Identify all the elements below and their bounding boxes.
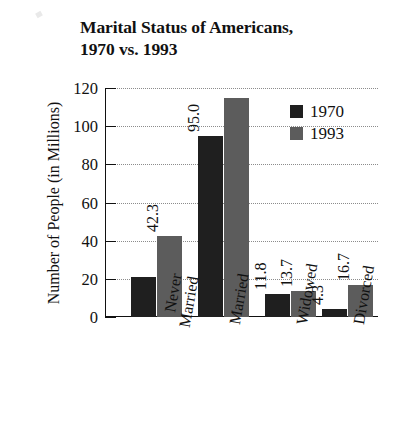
y-tick: 80 [105,164,116,165]
chart-title-line-2: 1970 vs. 1993 [80,38,380,60]
y-tick: 120 [105,88,116,89]
y-tick-label: 100 [73,117,98,137]
legend: 1970 1993 [290,100,344,144]
y-axis-title: Number of People (in Millions) [45,78,63,328]
y-tick: 20 [105,279,116,280]
bar-value-label: 13.7 [278,259,296,287]
y-tick: 40 [105,241,116,242]
chart-title-line-1: Marital Status of Americans, [80,16,380,38]
bar-1970-divorced: 4.3 [322,309,347,317]
bar-value-label: 16.7 [335,253,353,281]
y-tick: 0 [105,317,116,318]
y-tick: 100 [105,126,116,127]
bar-value-label: 42.3 [144,204,162,232]
y-tick-label: 60 [82,194,99,214]
legend-item-1993: 1993 [290,122,344,144]
legend-swatch-1993 [290,127,303,140]
legend-swatch-1970 [290,105,303,118]
category-label-never-married: NeverMarried [160,272,202,329]
legend-label-1970: 1970 [310,103,344,120]
plot-area: 020406080100120 42.395.011.813.74.316.7 … [105,88,378,317]
bar-value-label: 11.8 [252,263,270,290]
chart-title: Marital Status of Americans, 1970 vs. 19… [80,16,380,61]
y-tick-label: 120 [73,79,98,99]
bar-1970-never-married [131,277,156,317]
y-tick-label: 0 [90,308,98,328]
bar-chart: Marital Status of Americans, 1970 vs. 19… [0,0,393,425]
legend-item-1970: 1970 [290,100,344,122]
bar-1970-widowed: 11.8 [265,294,290,317]
y-tick-label: 40 [82,232,99,252]
scan-artifact [35,11,43,18]
legend-label-1993: 1993 [310,125,344,142]
y-tick-label: 80 [82,155,99,175]
y-tick: 60 [105,203,116,204]
bar-value-label: 95.0 [185,104,203,132]
gridline [105,88,378,89]
bar-1970-married: 95.0 [198,136,223,317]
y-tick-label: 20 [82,270,99,290]
